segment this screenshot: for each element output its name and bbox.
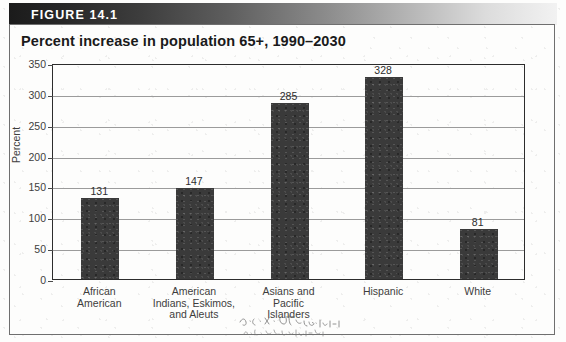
chart-title: Percent increase in population 65+, 1990… — [21, 33, 346, 49]
y-axis-tick-label: 150 — [28, 181, 46, 193]
y-axis-tick-label: 250 — [28, 120, 46, 132]
y-axis-tick-mark — [48, 188, 53, 189]
bar-value-label: 147 — [185, 175, 203, 187]
y-axis-tick-mark — [48, 96, 53, 97]
x-axis-category-label: AfricanAmerican — [77, 286, 121, 309]
bar-value-label: 81 — [472, 216, 484, 228]
x-axis-category-label: White — [464, 286, 491, 298]
bar-value-label: 285 — [280, 90, 298, 102]
bar — [271, 103, 309, 279]
y-axis-tick-mark — [48, 127, 53, 128]
bar — [365, 77, 403, 279]
figure-root: FIGURE 14.1 Percent increase in populati… — [0, 0, 566, 342]
y-axis-tick-label: 300 — [28, 89, 46, 101]
y-axis-tick-mark — [48, 65, 53, 66]
bar — [176, 188, 214, 279]
y-axis-tick-mark — [48, 281, 53, 282]
x-axis-category-label: Asians andPacificIslanders — [263, 286, 315, 321]
bar — [460, 229, 498, 279]
figure-number-label: FIGURE 14.1 — [31, 8, 118, 22]
y-axis-tick-mark — [48, 250, 53, 251]
y-axis-tick-mark — [48, 219, 53, 220]
y-axis-tick-labels: 050100150200250300350 — [12, 64, 46, 280]
bar-value-label: 131 — [91, 185, 109, 197]
y-axis-tick-label: 200 — [28, 151, 46, 163]
x-axis-category-label: AmericanIndians, Eskimos,and Aleuts — [153, 286, 235, 321]
y-axis-tick-label: 50 — [34, 243, 46, 255]
y-axis-tick-mark — [48, 158, 53, 159]
x-axis-category-label: Hispanic — [363, 286, 403, 298]
bar — [81, 198, 119, 279]
bar-value-label: 328 — [374, 64, 392, 76]
y-axis-tick-label: 350 — [28, 58, 46, 70]
y-axis-tick-label: 0 — [40, 274, 46, 286]
figure-banner: FIGURE 14.1 — [9, 3, 557, 25]
y-axis-tick-label: 100 — [28, 212, 46, 224]
